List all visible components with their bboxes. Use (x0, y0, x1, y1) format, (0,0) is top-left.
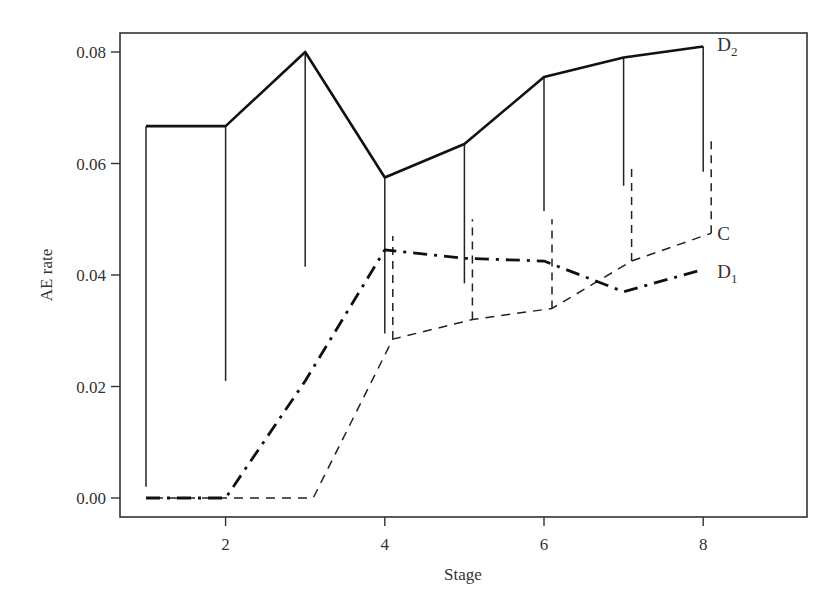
series-label-subscript: 2 (731, 44, 738, 59)
x-tick-label: 6 (540, 535, 549, 554)
series-label-D1: D1 (717, 261, 737, 286)
y-tick-label: 0.04 (76, 266, 106, 285)
y-axis: 0.000.020.040.060.08 (76, 43, 120, 508)
series-label-D2: D2 (717, 34, 737, 59)
y-axis-title: AE rate (37, 249, 56, 301)
y-tick-label: 0.00 (76, 489, 106, 508)
series-D2: D2 (146, 34, 737, 486)
y-tick-label: 0.08 (76, 43, 106, 62)
x-tick-label: 8 (699, 535, 708, 554)
y-tick-label: 0.06 (76, 155, 106, 174)
series-line-D2 (146, 46, 703, 177)
chart: 0.000.020.040.060.08 2468 D2CD1 Stage AE… (0, 0, 840, 610)
x-tick-label: 2 (221, 535, 230, 554)
series-label-subscript: 1 (731, 271, 738, 286)
x-axis: 2468 (221, 517, 707, 554)
series-C: C (154, 141, 730, 498)
x-axis-title: Stage (444, 565, 482, 584)
x-tick-label: 4 (381, 535, 390, 554)
series-D1: D1 (146, 250, 737, 498)
series-line-C (154, 233, 711, 498)
y-tick-label: 0.02 (76, 378, 106, 397)
series-line-D1 (146, 250, 703, 498)
series-label-C: C (717, 223, 730, 244)
series-layer: D2CD1 (146, 34, 737, 498)
